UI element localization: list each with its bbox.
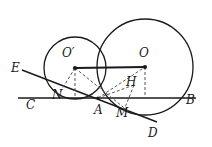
geometry-figure: O′ O E H N C A M B D [0, 0, 212, 147]
label-point-a: A [94, 104, 103, 116]
label-point-o-prime: O′ [62, 47, 75, 59]
label-point-o: O [139, 47, 149, 59]
dot-center-o [143, 65, 147, 69]
geometry-canvas [0, 0, 212, 147]
label-point-e: E [11, 62, 20, 74]
label-point-c: C [26, 99, 35, 111]
label-point-n: N [52, 89, 63, 101]
label-point-b: B [186, 94, 195, 106]
line-segment-e-a-d [22, 70, 157, 122]
label-point-m: M [116, 107, 128, 119]
label-point-d: D [148, 127, 158, 139]
dashed-a-to-o [98, 67, 145, 98]
dot-point-a [96, 96, 99, 99]
dot-center-o-prime [73, 66, 77, 70]
label-point-h: H [126, 76, 136, 88]
line-segment-o-prime-to-o [75, 67, 145, 68]
